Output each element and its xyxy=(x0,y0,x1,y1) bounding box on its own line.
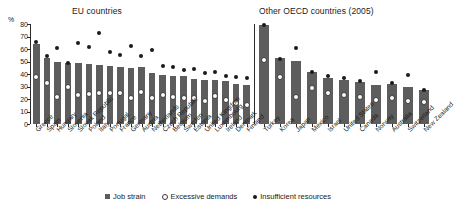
marker-excessive-demands[interactable] xyxy=(117,90,123,96)
marker-excessive-demands[interactable] xyxy=(341,92,347,98)
marker-excessive-demands[interactable] xyxy=(325,90,331,96)
bar-job-strain[interactable] xyxy=(259,25,269,124)
legend-label-excessive-demands: Excessive demands xyxy=(171,192,238,201)
marker-insufficient-resources[interactable] xyxy=(34,40,38,44)
marker-excessive-demands[interactable] xyxy=(65,84,71,90)
marker-insufficient-resources[interactable] xyxy=(224,74,228,78)
bar-group[interactable] xyxy=(128,24,135,124)
panel-title-oecd: Other OECD countries (2005) xyxy=(259,6,374,16)
bar-job-strain[interactable] xyxy=(291,61,301,124)
bar-job-strain[interactable] xyxy=(33,44,40,124)
bar-job-strain[interactable] xyxy=(339,80,349,124)
bar-group[interactable] xyxy=(387,24,397,124)
marker-excessive-demands[interactable] xyxy=(389,95,395,101)
marker-insufficient-resources[interactable] xyxy=(192,67,196,71)
y-axis-tick-label: 50 xyxy=(8,58,28,65)
y-axis-tick-label: 60 xyxy=(8,46,28,53)
marker-excessive-demands[interactable] xyxy=(244,102,250,108)
bar-group[interactable] xyxy=(259,24,269,124)
marker-insufficient-resources[interactable] xyxy=(342,76,346,80)
bar-group[interactable] xyxy=(138,24,145,124)
marker-excessive-demands[interactable] xyxy=(138,89,144,95)
marker-insufficient-resources[interactable] xyxy=(161,64,165,68)
marker-insufficient-resources[interactable] xyxy=(245,76,249,80)
legend-item-excessive-demands: Excessive demands xyxy=(162,192,238,201)
marker-insufficient-resources[interactable] xyxy=(87,45,91,49)
marker-excessive-demands[interactable] xyxy=(405,98,411,104)
bar-group[interactable] xyxy=(371,24,381,124)
marker-excessive-demands[interactable] xyxy=(96,90,102,96)
marker-insufficient-resources[interactable] xyxy=(213,70,217,74)
marker-excessive-demands[interactable] xyxy=(277,74,283,80)
bar-group[interactable] xyxy=(159,24,166,124)
marker-insufficient-resources[interactable] xyxy=(171,65,175,69)
marker-excessive-demands[interactable] xyxy=(293,94,299,100)
marker-excessive-demands[interactable] xyxy=(149,95,155,101)
bar-group[interactable] xyxy=(44,24,51,124)
marker-excessive-demands[interactable] xyxy=(160,92,166,98)
y-axis-tick-label: 0 xyxy=(8,121,28,128)
y-axis-tick-label: 20 xyxy=(8,96,28,103)
legend-item-insufficient-resources: Insufficient resources xyxy=(253,192,331,201)
bar-group[interactable] xyxy=(149,24,156,124)
bar-group[interactable] xyxy=(54,24,61,124)
marker-insufficient-resources[interactable] xyxy=(66,61,70,65)
marker-insufficient-resources[interactable] xyxy=(139,54,143,58)
marker-insufficient-resources[interactable] xyxy=(262,23,266,27)
marker-excessive-demands[interactable] xyxy=(86,91,92,97)
open-circle-swatch-icon xyxy=(162,194,168,200)
plot-area-eu xyxy=(31,24,252,124)
marker-insufficient-resources[interactable] xyxy=(108,50,112,54)
marker-excessive-demands[interactable] xyxy=(261,57,267,63)
chart-legend: Job strain Excessive demands Insufficien… xyxy=(0,192,436,201)
marker-excessive-demands[interactable] xyxy=(357,94,363,100)
marker-excessive-demands[interactable] xyxy=(181,95,187,101)
bar-group[interactable] xyxy=(117,24,124,124)
marker-insufficient-resources[interactable] xyxy=(129,44,133,48)
marker-insufficient-resources[interactable] xyxy=(406,73,410,77)
bar-group[interactable] xyxy=(201,24,208,124)
marker-insufficient-resources[interactable] xyxy=(234,75,238,79)
marker-excessive-demands[interactable] xyxy=(170,94,176,100)
bar-group[interactable] xyxy=(86,24,93,124)
marker-excessive-demands[interactable] xyxy=(75,92,81,98)
marker-excessive-demands[interactable] xyxy=(309,85,315,91)
marker-insufficient-resources[interactable] xyxy=(182,68,186,72)
marker-insufficient-resources[interactable] xyxy=(422,88,426,92)
marker-insufficient-resources[interactable] xyxy=(76,41,80,45)
marker-insufficient-resources[interactable] xyxy=(310,70,314,74)
bar-group[interactable] xyxy=(75,24,82,124)
marker-excessive-demands[interactable] xyxy=(212,93,218,99)
bar-group[interactable] xyxy=(291,24,301,124)
marker-insufficient-resources[interactable] xyxy=(294,46,298,50)
marker-excessive-demands[interactable] xyxy=(202,98,208,104)
bar-group[interactable] xyxy=(107,24,114,124)
bar-group[interactable] xyxy=(243,24,250,124)
bar-group[interactable] xyxy=(307,24,317,124)
bar-group[interactable] xyxy=(65,24,72,124)
bar-group[interactable] xyxy=(212,24,219,124)
marker-excessive-demands[interactable] xyxy=(54,94,60,100)
marker-insufficient-resources[interactable] xyxy=(358,79,362,83)
y-axis-tick-label: 80 xyxy=(8,21,28,28)
marker-insufficient-resources[interactable] xyxy=(150,48,154,52)
marker-insufficient-resources[interactable] xyxy=(55,46,59,50)
marker-excessive-demands[interactable] xyxy=(421,99,427,105)
bar-group[interactable] xyxy=(339,24,349,124)
bar-group[interactable] xyxy=(275,24,285,124)
marker-excessive-demands[interactable] xyxy=(128,95,134,101)
bar-group[interactable] xyxy=(191,24,198,124)
marker-insufficient-resources[interactable] xyxy=(374,70,378,74)
marker-insufficient-resources[interactable] xyxy=(118,53,122,57)
marker-excessive-demands[interactable] xyxy=(33,74,39,80)
marker-insufficient-resources[interactable] xyxy=(45,54,49,58)
filled-diamond-swatch-icon xyxy=(253,195,257,199)
marker-insufficient-resources[interactable] xyxy=(326,74,330,78)
marker-insufficient-resources[interactable] xyxy=(203,71,207,75)
bar-group[interactable] xyxy=(323,24,333,124)
bar-group[interactable] xyxy=(33,24,40,124)
marker-insufficient-resources[interactable] xyxy=(278,57,282,61)
marker-excessive-demands[interactable] xyxy=(44,80,50,86)
marker-insufficient-resources[interactable] xyxy=(390,81,394,85)
marker-insufficient-resources[interactable] xyxy=(97,31,101,35)
